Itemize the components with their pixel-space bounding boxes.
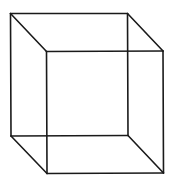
- edge-back-top-right-to-front-top-right: [128, 14, 164, 52]
- edge-back-bottom-left-to-front-bottom-left: [11, 136, 47, 174]
- edge-front-top-left-to-front-top-right: [47, 51, 164, 52]
- edge-back-top-left-to-front-top-left: [11, 14, 47, 52]
- edge-front-bottom-left-to-front-top-left: [47, 52, 48, 174]
- edge-back-top-right-to-back-bottom-right: [128, 14, 129, 136]
- edge-front-top-right-to-front-bottom-right: [163, 51, 164, 173]
- edge-front-bottom-right-to-front-bottom-left: [47, 173, 164, 174]
- edge-back-bottom-right-to-front-bottom-right: [128, 136, 164, 174]
- edge-back-bottom-right-to-back-bottom-left: [11, 136, 128, 137]
- cube-edges: [11, 14, 164, 174]
- edge-back-bottom-left-to-back-top-left: [11, 14, 12, 137]
- necker-cube-diagram: [0, 0, 170, 185]
